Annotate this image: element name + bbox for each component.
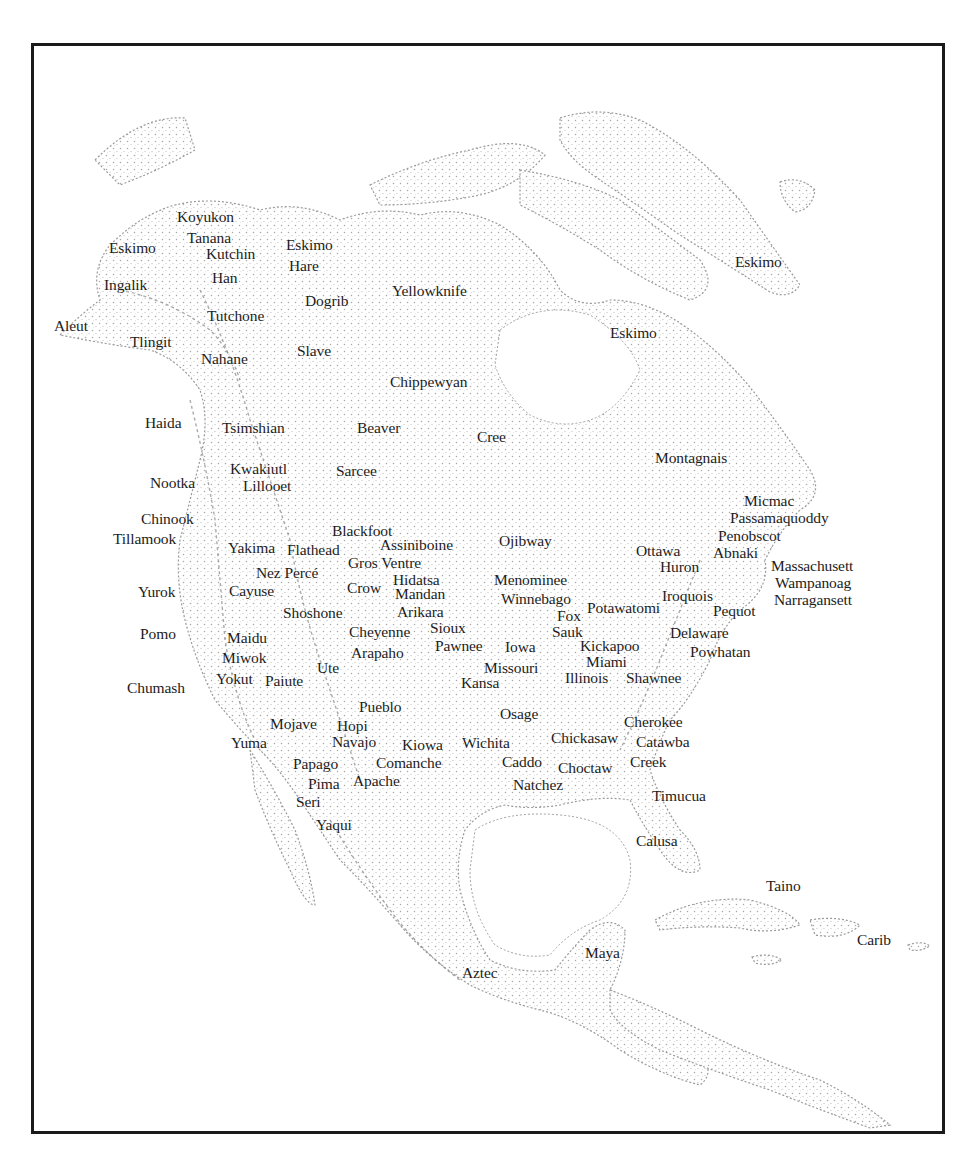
tribe-label-ingalik: Ingalik <box>104 277 147 293</box>
tribe-label-fox: Fox <box>557 608 581 624</box>
tribe-label-pequot: Pequot <box>713 603 755 619</box>
tribe-label-catawba: Catawba <box>636 734 690 750</box>
siberia-tip-landmass <box>95 118 195 185</box>
tribe-label-arapaho: Arapaho <box>351 645 404 661</box>
tribe-label-cayuse: Cayuse <box>229 583 274 599</box>
tribe-label-sioux: Sioux <box>430 620 466 636</box>
tribe-label-choctaw: Choctaw <box>558 760 612 776</box>
tribe-label-natchez: Natchez <box>513 777 563 793</box>
tribe-label-pima: Pima <box>308 776 339 792</box>
tribe-label-tillamook: Tillamook <box>113 531 176 547</box>
tribe-label-paiute: Paiute <box>265 673 303 689</box>
tribe-label-miami: Miami <box>586 654 627 670</box>
tribe-label-winnebago: Winnebago <box>501 591 571 607</box>
tribe-label-assiniboine: Assiniboine <box>380 537 453 553</box>
tribe-label-aztec: Aztec <box>462 965 498 981</box>
tribe-label-wichita: Wichita <box>462 735 510 751</box>
tribe-label-sarcee: Sarcee <box>336 463 377 479</box>
tribe-label-kwakiutl: Kwakiutl <box>230 461 287 477</box>
tribe-label-yokut: Yokut <box>216 671 253 687</box>
tribe-label-kansa: Kansa <box>461 675 499 691</box>
tribe-label-aleut: Aleut <box>54 318 88 334</box>
tribe-label-osage: Osage <box>500 706 538 722</box>
tribe-label-iowa: Iowa <box>505 639 536 655</box>
tribe-label-ute: Ute <box>317 660 339 676</box>
tribe-label-delaware: Delaware <box>670 625 729 641</box>
cuba-landmass <box>655 899 800 931</box>
tribe-label-montagnais: Montagnais <box>655 450 727 466</box>
tribe-label-eskimo: Eskimo <box>735 254 782 270</box>
tribe-label-tutchone: Tutchone <box>207 308 264 324</box>
tribe-label-tlingit: Tlingit <box>130 334 172 350</box>
tribe-label-beaver: Beaver <box>357 420 400 436</box>
tribe-label-koyukon: Koyukon <box>177 209 234 225</box>
tribe-label-papago: Papago <box>293 756 338 772</box>
arctic-islands-landmass <box>370 144 545 205</box>
tribe-label-eskimo: Eskimo <box>109 240 156 256</box>
tribe-label-wampanoag: Wampanoag <box>775 575 851 591</box>
tribe-label-carib: Carib <box>857 932 891 948</box>
tribe-label-hare: Hare <box>289 258 319 274</box>
tribe-label-timucua: Timucua <box>652 788 706 804</box>
tribe-label-ojibway: Ojibway <box>499 533 552 549</box>
tribe-label-seri: Seri <box>296 794 321 810</box>
tribe-label-apache: Apache <box>353 773 400 789</box>
tribe-label-narragansett: Narragansett <box>774 592 852 608</box>
tribe-label-pawnee: Pawnee <box>435 638 483 654</box>
tribe-label-potawatomi: Potawatomi <box>587 600 660 616</box>
tribe-label-kutchin: Kutchin <box>206 246 255 262</box>
hispaniola-landmass <box>810 918 860 936</box>
tribe-label-shoshone: Shoshone <box>283 605 342 621</box>
tribe-label-tanana: Tanana <box>187 230 231 246</box>
iceland-landmass <box>780 180 815 212</box>
tribe-label-yakima: Yakima <box>228 540 275 556</box>
tribe-label-maidu: Maidu <box>227 630 267 646</box>
tribe-label-caddo: Caddo <box>502 754 542 770</box>
tribe-label-creek: Creek <box>630 754 667 770</box>
tribe-label-cheyenne: Cheyenne <box>349 624 410 640</box>
tribe-label-yellowknife: Yellowknife <box>392 283 467 299</box>
tribe-label-calusa: Calusa <box>636 833 678 849</box>
tribe-label-comanche: Comanche <box>376 755 441 771</box>
tribe-label-menominee: Menominee <box>494 572 567 588</box>
tribe-label-maya: Maya <box>585 945 620 961</box>
tribe-label-nez-perc-: Nez Percé <box>256 565 318 581</box>
tribe-label-yaqui: Yaqui <box>316 817 352 833</box>
tribe-label-illinois: Illinois <box>565 670 608 686</box>
tribe-label-tsimshian: Tsimshian <box>222 420 285 436</box>
tribe-label-cree: Cree <box>477 429 506 445</box>
tribe-label-chinook: Chinook <box>141 511 194 527</box>
tribe-label-nahane: Nahane <box>201 351 248 367</box>
tribe-label-chickasaw: Chickasaw <box>551 730 618 746</box>
tribe-label-chumash: Chumash <box>127 680 185 696</box>
tribe-label-nootka: Nootka <box>150 475 195 491</box>
tribe-label-mojave: Mojave <box>270 716 317 732</box>
tribe-label-mandan: Mandan <box>395 586 445 602</box>
tribe-label-han: Han <box>212 270 238 286</box>
tribe-label-navajo: Navajo <box>332 734 376 750</box>
tribe-label-hopi: Hopi <box>337 718 368 734</box>
tribe-label-abnaki: Abnaki <box>713 545 758 561</box>
tribe-label-ottawa: Ottawa <box>636 543 680 559</box>
tribe-label-eskimo: Eskimo <box>610 325 657 341</box>
tribe-label-chippewyan: Chippewyan <box>390 374 467 390</box>
tribe-label-gros-ventre: Gros Ventre <box>348 555 421 571</box>
tribe-label-pueblo: Pueblo <box>359 699 401 715</box>
tribe-label-haida: Haida <box>145 415 182 431</box>
tribe-label-eskimo: Eskimo <box>286 237 333 253</box>
tribe-label-cherokee: Cherokee <box>624 714 683 730</box>
tribe-label-pomo: Pomo <box>140 626 176 642</box>
tribe-label-yurok: Yurok <box>138 584 175 600</box>
tribe-label-kickapoo: Kickapoo <box>580 638 639 654</box>
tribe-label-huron: Huron <box>660 559 699 575</box>
tribe-label-kiowa: Kiowa <box>402 737 443 753</box>
tribe-label-arikara: Arikara <box>397 604 444 620</box>
jamaica-landmass <box>752 955 782 964</box>
puerto-rico-landmass <box>908 943 930 951</box>
tribe-label-slave: Slave <box>297 343 331 359</box>
tribe-label-shawnee: Shawnee <box>626 670 681 686</box>
tribe-label-sauk: Sauk <box>552 624 583 640</box>
tribe-label-powhatan: Powhatan <box>690 644 750 660</box>
tribe-label-massachusett: Massachusett <box>771 558 853 574</box>
tribe-label-miwok: Miwok <box>222 650 266 666</box>
